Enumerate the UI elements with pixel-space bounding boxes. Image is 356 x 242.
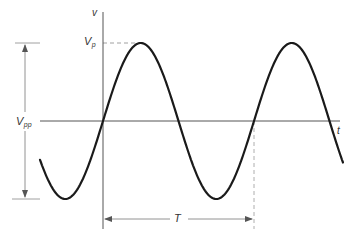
vp-label: Vp <box>84 36 96 48</box>
v-axis-label: v <box>92 8 97 18</box>
vpp-label-main: V <box>16 115 23 127</box>
vpp-label: Vpp <box>15 116 33 128</box>
vp-label-sub: p <box>92 41 96 48</box>
sine-wave-diagram: v Vp Vpp t T <box>0 0 356 242</box>
period-label: T <box>174 213 181 224</box>
vp-label-main: V <box>84 35 91 47</box>
waveform-canvas <box>0 0 356 242</box>
t-axis-label: t <box>337 126 340 136</box>
vpp-label-sub: pp <box>24 121 32 128</box>
